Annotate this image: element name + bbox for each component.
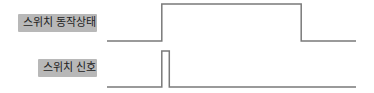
switch-state-waveform <box>107 4 356 41</box>
timing-diagram: 스위치 동작상태 스위치 신호 <box>0 0 374 93</box>
switch-signal-waveform <box>107 51 356 87</box>
waveforms <box>0 0 374 93</box>
